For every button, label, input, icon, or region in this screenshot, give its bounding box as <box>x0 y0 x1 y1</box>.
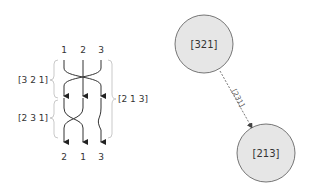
left-bracket-label-1: [3 2 1] <box>18 75 48 85</box>
state-graph: [231] [321] [213] <box>175 15 295 182</box>
right-bracket-label: [2 1 3] <box>118 94 148 104</box>
graph-node-321-label: [321] <box>191 39 218 50</box>
top-label-3: 3 <box>98 45 104 55</box>
bottom-label-3: 3 <box>98 152 104 162</box>
graph-node-213-label: [213] <box>253 148 280 159</box>
edge-label: [231] <box>230 88 246 109</box>
braid-diagram: 1 2 3 2 1 3 [3 2 1] [2 3 1] [2 1 3] <box>18 45 148 162</box>
right-brace <box>108 60 116 138</box>
bottom-label-2: 1 <box>80 152 86 162</box>
braid-strands-lower <box>64 98 101 142</box>
braid-strands-upper <box>64 60 101 96</box>
left-bracket-label-2: [2 3 1] <box>18 113 48 123</box>
left-brace-upper <box>50 60 58 98</box>
top-label-1: 1 <box>61 45 67 55</box>
bottom-label-1: 2 <box>61 152 67 162</box>
diagram-canvas: 1 2 3 2 1 3 [3 2 1] [2 3 1] [2 1 3] [231… <box>0 0 313 193</box>
left-brace-lower <box>50 100 58 138</box>
top-label-2: 2 <box>80 45 86 55</box>
